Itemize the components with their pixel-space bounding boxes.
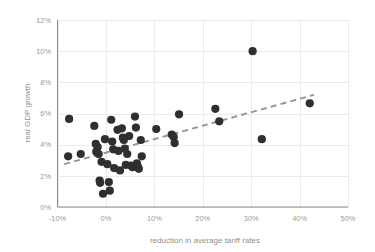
- y-tick-label: 0%: [40, 203, 51, 212]
- y-tick-label: 6%: [40, 109, 51, 118]
- y-tick-label: 8%: [40, 78, 51, 87]
- data-point: [175, 110, 183, 118]
- data-point: [211, 105, 219, 113]
- data-point: [64, 152, 72, 160]
- x-axis-title: reduction in average tariff rates: [150, 236, 260, 245]
- data-point: [101, 135, 109, 143]
- data-point: [137, 136, 145, 144]
- x-tick-label: 0%: [101, 214, 112, 223]
- data-point: [106, 187, 114, 195]
- data-point: [135, 165, 143, 173]
- data-point: [94, 143, 102, 151]
- data-point: [171, 139, 179, 147]
- data-point: [138, 152, 146, 160]
- data-point: [215, 117, 223, 125]
- y-tick-label: 2%: [40, 172, 51, 181]
- y-tick-label: 4%: [40, 140, 51, 149]
- y-tick-label: 12%: [36, 16, 51, 25]
- data-point: [132, 123, 140, 131]
- data-point: [95, 150, 103, 158]
- data-point: [65, 115, 73, 123]
- data-point: [125, 132, 133, 140]
- data-point: [90, 122, 98, 130]
- data-point: [108, 137, 116, 145]
- x-tick-label: 40%: [292, 214, 307, 223]
- data-point: [123, 150, 131, 158]
- data-point: [96, 179, 104, 187]
- data-point: [107, 116, 115, 124]
- x-tick-label: 20%: [195, 214, 210, 223]
- y-axis-title: real GDP growth: [23, 84, 32, 143]
- data-points: [64, 47, 314, 198]
- data-point: [131, 113, 139, 121]
- x-tick-label: 30%: [244, 214, 259, 223]
- x-tick-label: 10%: [147, 214, 162, 223]
- data-point: [105, 178, 113, 186]
- data-point: [77, 150, 85, 158]
- x-tick-labels: -10%0%10%20%30%40%50%: [49, 214, 356, 223]
- data-point: [118, 124, 126, 132]
- y-tick-labels: 0%2%4%6%8%10%12%: [36, 16, 51, 212]
- data-point: [249, 47, 257, 55]
- x-tick-label: -10%: [49, 214, 67, 223]
- data-point: [306, 99, 314, 107]
- data-point: [258, 135, 266, 143]
- data-point: [152, 125, 160, 133]
- x-tick-label: 50%: [341, 214, 356, 223]
- chart-figure: -10%0%10%20%30%40%50% 0%2%4%6%8%10%12% r…: [0, 0, 375, 252]
- y-tick-label: 10%: [36, 47, 51, 56]
- scatter-plot: -10%0%10%20%30%40%50% 0%2%4%6%8%10%12% r…: [0, 0, 375, 252]
